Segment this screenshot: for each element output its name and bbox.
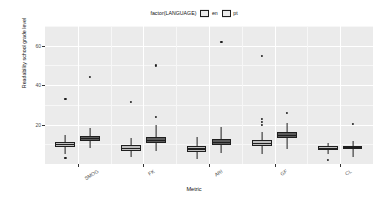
boxplot-outlier-point <box>220 41 222 43</box>
boxplot-box <box>277 26 297 164</box>
x-tick-label: ARI <box>213 168 223 178</box>
boxplot-box <box>212 26 232 164</box>
boxplot-median-line <box>146 140 166 141</box>
gridline-x-major <box>275 26 276 164</box>
x-tick-mark <box>340 164 341 167</box>
legend: factor(LANGUAGE) en pt <box>0 9 388 18</box>
boxplot-median-line <box>318 148 338 149</box>
x-axis-title: Metric <box>0 186 388 192</box>
x-tick-mark <box>275 164 276 167</box>
boxplot-outlier-point <box>64 157 66 159</box>
boxplot-box <box>187 26 207 164</box>
boxplot-outlier-point <box>352 122 354 124</box>
gridline-x-minor <box>176 26 177 164</box>
boxplot-median-line <box>187 148 207 149</box>
boxplot-outlier-point <box>261 121 263 123</box>
boxplot-box <box>343 26 363 164</box>
boxplot-outlier-point <box>64 98 66 100</box>
boxplot-outlier-point <box>286 112 288 114</box>
x-tick-label: SMOG <box>83 168 99 181</box>
y-tick-label: 20 <box>35 122 41 128</box>
legend-label-pt: pt <box>233 11 237 16</box>
x-tick-mark <box>78 164 79 167</box>
plot-panel: 204060SMOGFKARIGFCL <box>45 26 373 164</box>
boxplot-box <box>80 26 100 164</box>
boxplot-median-line <box>80 138 100 139</box>
y-tick-label: 40 <box>35 82 41 88</box>
gridline-x-major <box>209 26 210 164</box>
boxplot-outlier-point <box>261 54 263 56</box>
boxplot-box <box>252 26 272 164</box>
y-tick-mark <box>42 46 45 47</box>
boxplot-median-line <box>343 147 363 148</box>
legend-item-pt[interactable]: pt <box>222 9 238 18</box>
boxplot-outlier-point <box>155 64 157 66</box>
y-tick-mark <box>42 85 45 86</box>
gridline-x-minor <box>307 26 308 164</box>
boxplot-outlier-point <box>261 123 263 125</box>
legend-key-en <box>200 9 209 18</box>
gridline-x-minor <box>242 26 243 164</box>
boxplot-whisker <box>352 141 353 157</box>
boxplot-median-line <box>277 135 297 136</box>
boxplot-median-line <box>252 143 272 144</box>
legend-title: factor(LANGUAGE) <box>150 11 196 16</box>
gridline-x-major <box>78 26 79 164</box>
boxplot-box <box>146 26 166 164</box>
boxplot-box <box>121 26 141 164</box>
y-axis-title: Readability school grade level <box>21 0 27 133</box>
boxplot-box <box>318 26 338 164</box>
boxplot-outlier-point <box>89 76 91 78</box>
boxplot-box <box>55 26 75 164</box>
boxplot-outlier-point <box>130 101 132 103</box>
y-tick-mark <box>42 125 45 126</box>
gridline-x-major <box>340 26 341 164</box>
legend-key-pt <box>222 9 231 18</box>
gridline-x-major <box>143 26 144 164</box>
legend-label-en: en <box>212 11 218 16</box>
boxplot-median-line <box>121 148 141 149</box>
boxplot-median-line <box>55 144 75 145</box>
boxplot-outlier-point <box>155 116 157 118</box>
gridline-x-minor <box>111 26 112 164</box>
boxplot-outlier-point <box>261 118 263 120</box>
chart-root: factor(LANGUAGE) en pt Readability schoo… <box>0 0 388 201</box>
x-tick-label: FK <box>147 168 156 176</box>
boxplot-outlier-point <box>327 159 329 161</box>
x-tick-label: GF <box>279 168 288 177</box>
x-tick-mark <box>209 164 210 167</box>
x-tick-mark <box>143 164 144 167</box>
y-tick-label: 60 <box>35 43 41 49</box>
legend-item-en[interactable]: en <box>200 9 217 18</box>
boxplot-median-line <box>212 142 232 143</box>
x-tick-label: CL <box>344 168 353 176</box>
